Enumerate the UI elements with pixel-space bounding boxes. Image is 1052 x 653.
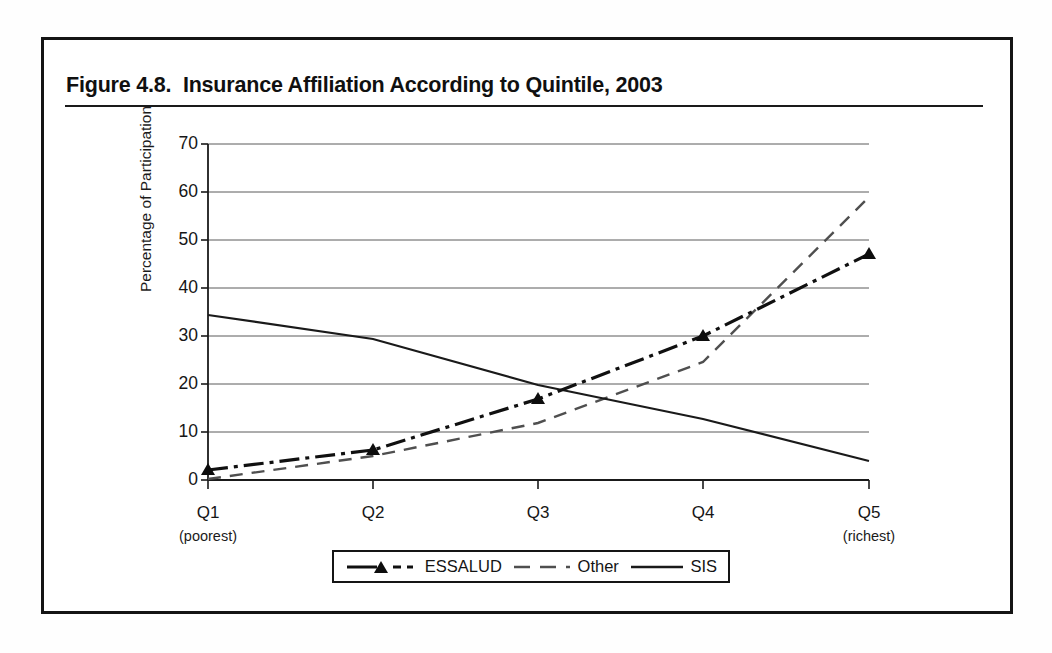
axis-lines	[208, 144, 869, 480]
legend-label-other: Other	[578, 557, 619, 576]
legend-item-other: Other	[512, 557, 619, 576]
series-line-sis	[208, 315, 869, 461]
legend-label-sis: SIS	[691, 557, 718, 576]
chart-legend: ESSALUD Other SIS	[332, 550, 730, 583]
chart-plot-area: Percentage of Participation 70 60 50 40 …	[44, 40, 1010, 611]
legend-label-essalud: ESSALUD	[425, 557, 502, 576]
x-tick-marks	[208, 480, 869, 489]
y-tick-marks	[201, 144, 208, 480]
series-line-essalud	[208, 254, 869, 470]
legend-item-sis: SIS	[629, 557, 718, 576]
legend-swatch-essalud	[345, 559, 419, 575]
gridlines	[208, 144, 869, 432]
legend-item-essalud: ESSALUD	[345, 557, 502, 576]
legend-swatch-sis	[629, 559, 685, 575]
series-markers-essalud	[201, 247, 876, 475]
legend-swatch-other	[512, 559, 572, 575]
figure-frame: Figure 4.8. Insurance Affiliation Accord…	[41, 37, 1013, 614]
figure-page: Figure 4.8. Insurance Affiliation Accord…	[0, 0, 1052, 653]
chart-svg	[44, 40, 1010, 611]
